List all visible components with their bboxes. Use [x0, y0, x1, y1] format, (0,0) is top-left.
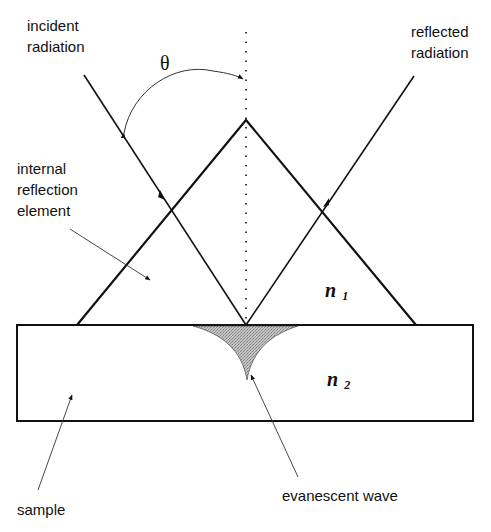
ire-pointer-arrow — [70, 229, 150, 280]
reflected-ray-arrow-icon — [323, 198, 329, 207]
incident-radiation-label: incident radiation — [27, 17, 85, 55]
n1-label: n1 — [325, 279, 348, 303]
evanescent-pointer-arrow — [251, 375, 298, 477]
atr-diagram: incident radiation reflected radiation θ… — [0, 0, 491, 532]
reflected-radiation-label: reflected radiation — [411, 23, 473, 61]
evanescent-wave-label: evanescent wave — [282, 487, 398, 504]
sample-label: sample — [17, 501, 65, 518]
n2-label: n2 — [327, 368, 350, 392]
theta-angle-arc — [124, 69, 243, 133]
internal-reflection-element-label: internal reflection element — [17, 160, 82, 219]
evanescent-wave-region — [193, 326, 298, 380]
theta-label: θ — [160, 52, 170, 74]
sample-pointer-arrow — [38, 395, 72, 490]
